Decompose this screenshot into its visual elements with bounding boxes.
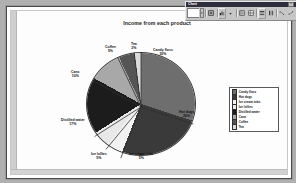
pie-label-hot-dogs: Hot dogs 26%: [179, 110, 194, 119]
toolbar-title: Chart: [188, 2, 197, 7]
page-title: Income from each product: [107, 20, 207, 27]
legend-item-label: Tea: [239, 125, 244, 130]
plot-area[interactable]: Candy floss 30% Hot dogs 26% Ice cream t…: [69, 44, 219, 164]
chart-objects-dropdown-arrow[interactable]: ▾: [200, 8, 204, 18]
legend-item[interactable]: Tea: [232, 125, 276, 130]
format-object-icon: [208, 10, 214, 16]
chart-sheet: Income from each product Candy floss 30%…: [6, 6, 292, 179]
data-table-icon: [248, 10, 254, 16]
legend-button[interactable]: [238, 8, 246, 19]
pie-label-ice-cream-tubs: Ice cream tubs 5%: [129, 152, 154, 161]
svg-text:a: a: [279, 11, 281, 14]
sheet-bottom-strip: [11, 169, 287, 174]
chart-type-dropdown[interactable]: [227, 8, 234, 19]
angle-up-icon: a: [288, 10, 294, 16]
pie-label-ice-lollies: Ice lollies 5%: [91, 152, 107, 161]
format-object-button[interactable]: [207, 8, 215, 19]
angle-text-down-button[interactable]: a: [278, 8, 286, 19]
pie-label-cans: Cans 10%: [71, 70, 80, 79]
pie-label-tea: Tea 2%: [131, 42, 137, 51]
pie-label-candy-floss: Candy floss 30%: [153, 48, 173, 57]
angle-text-up-button[interactable]: a: [287, 8, 295, 19]
data-table-button[interactable]: [247, 8, 255, 19]
toolbar-buttons-row: ▾: [186, 7, 296, 19]
angle-down-icon: a: [279, 10, 285, 16]
by-row-button[interactable]: [258, 8, 266, 19]
chart-toolbar[interactable]: Chart × ▾: [185, 1, 296, 21]
pie-slice-borders: [86, 52, 196, 162]
screenshot-root: Income from each product Candy floss 30%…: [0, 0, 296, 183]
legend-color-key: [232, 124, 237, 129]
close-icon[interactable]: ×: [288, 2, 294, 8]
chart-legend[interactable]: Candy flossHot dogsIce cream tubsIce lol…: [229, 87, 279, 132]
pie-chart[interactable]: [86, 52, 196, 156]
legend-icon: [239, 10, 245, 16]
chart-type-icon: [219, 10, 225, 16]
by-row-icon: [259, 10, 265, 16]
chevron-down-icon: [228, 11, 233, 16]
sheet-left-gutter: [11, 11, 17, 174]
chart-sheet-canvas[interactable]: Income from each product Candy floss 30%…: [10, 10, 288, 175]
chart-type-button[interactable]: [218, 8, 226, 19]
chart-objects-select[interactable]: [187, 8, 199, 18]
pie-label-coffee: Coffee 5%: [105, 45, 116, 54]
pie-label-distilled-water: Distilled water 17%: [61, 118, 85, 127]
by-column-button[interactable]: [267, 8, 275, 19]
svg-text:a: a: [288, 13, 290, 16]
by-column-icon: [268, 10, 274, 16]
